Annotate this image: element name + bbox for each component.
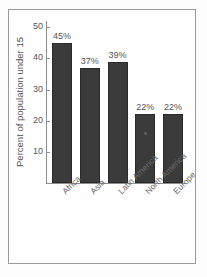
chart-figure: Percent of population under 15 102030405… [0,0,207,277]
y-axis-title: Percent of population under 15 [14,21,26,183]
y-tick-label: 40 [33,52,43,63]
y-tick-label: 50 [33,21,43,32]
bar-africa: 45% [52,43,72,183]
y-tick-label: 10 [33,146,43,157]
bar-value-label: 22% [136,102,154,113]
bar-value-label: 37% [81,56,99,67]
bar-value-label: 39% [108,50,126,61]
bar-value-label: 22% [164,102,182,113]
plot-area: 45%37%39%22%22% [46,21,185,183]
bar-latin-america: 39% [108,62,128,184]
y-tick-label: 20 [33,115,43,126]
bar-asia: 37% [80,68,100,183]
y-tick-label: 30 [33,84,43,95]
bar-value-label: 45% [53,31,71,42]
